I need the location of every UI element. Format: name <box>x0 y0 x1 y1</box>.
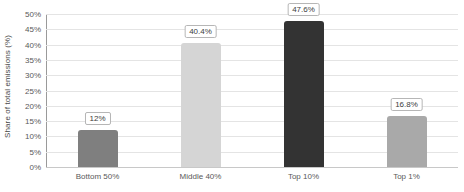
y-axis-title-text: Share of total emissions (%) <box>3 35 12 138</box>
bars-layer: 12%40.4%47.6%16.8% <box>46 14 458 167</box>
y-axis-tick-label: 25% <box>25 86 41 95</box>
x-axis-tick-labels: Bottom 50%Middle 40%Top 10%Top 1% <box>46 172 458 188</box>
bar <box>284 21 324 167</box>
bar-chart: Share of total emissions (%) 0%5%10%15%2… <box>0 0 464 192</box>
bar <box>387 116 427 167</box>
x-axis-tick-label: Top 10% <box>252 172 355 181</box>
y-axis-tick-label: 15% <box>25 117 41 126</box>
y-axis-tick-label: 0% <box>29 163 41 172</box>
bar-group: 40.4% <box>149 14 252 167</box>
x-axis-tick-label: Middle 40% <box>149 172 252 181</box>
bar <box>181 43 221 167</box>
x-axis-tick-label: Bottom 50% <box>46 172 149 181</box>
y-axis-tick-label: 30% <box>25 71 41 80</box>
y-axis-tick-label: 20% <box>25 101 41 110</box>
bar-value-label: 40.4% <box>184 25 217 38</box>
bar-group: 16.8% <box>355 14 458 167</box>
gridline <box>46 167 458 168</box>
bar-value-label: 16.8% <box>390 98 423 111</box>
y-axis-tick-labels: 0%5%10%15%20%25%30%35%40%45%50% <box>14 0 44 172</box>
x-axis-tick-label: Top 1% <box>355 172 458 181</box>
bar-value-label: 47.6% <box>287 3 320 16</box>
y-axis-tick-label: 40% <box>25 40 41 49</box>
bar-group: 47.6% <box>252 14 355 167</box>
bar-group: 12% <box>46 14 149 167</box>
y-axis-tick-label: 35% <box>25 55 41 64</box>
bar-value-label: 12% <box>84 112 110 125</box>
y-axis-title: Share of total emissions (%) <box>0 0 14 172</box>
y-axis-tick-label: 5% <box>29 147 41 156</box>
y-axis-tick-label: 45% <box>25 25 41 34</box>
bar <box>78 130 118 167</box>
y-axis-tick-label: 10% <box>25 132 41 141</box>
y-axis-tick-label: 50% <box>25 10 41 19</box>
